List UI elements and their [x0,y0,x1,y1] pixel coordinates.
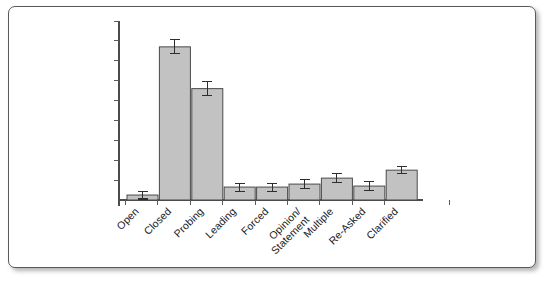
bar [159,47,190,200]
category-label: Open [114,205,141,232]
figure-card: OpenClosedProbingLeadingForcedOpinion/St… [8,6,536,268]
category-label: Closed [141,205,173,237]
category-labels-group: OpenClosedProbingLeadingForcedOpinion/St… [114,205,400,256]
bars-group [127,47,417,200]
category-label: Forced [238,205,270,237]
bar-chart-svg: OpenClosedProbingLeadingForcedOpinion/St… [9,7,536,268]
bar-chart-plot: OpenClosedProbingLeadingForcedOpinion/St… [9,7,536,268]
category-label: Probing [171,205,206,240]
category-label: Leading [203,205,238,240]
bar [386,170,417,200]
bar [192,89,223,200]
category-label: Clarified [364,205,400,241]
